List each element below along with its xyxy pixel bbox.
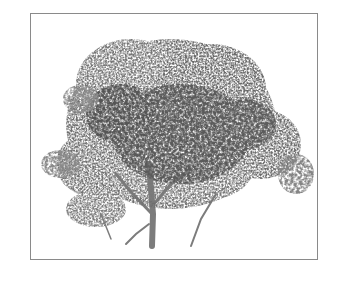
image-frame [30, 13, 318, 260]
tree-illustration [31, 14, 317, 259]
